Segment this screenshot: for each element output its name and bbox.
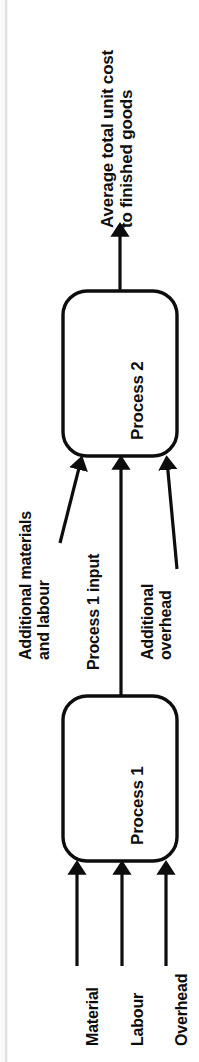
additional-overhead-label: Additional overhead (139, 584, 175, 660)
additional-overhead-line2: overhead (157, 584, 175, 660)
process-2-box[interactable] (63, 291, 177, 456)
additional-materials-and-labour-label: Additional materials and labour (17, 511, 53, 660)
process-1-label: Process 1 (128, 766, 148, 845)
additional-materials-and-labour-line1: Additional materials (17, 511, 35, 660)
labour-label: Labour (129, 993, 147, 1046)
additional-overhead-line1: Additional (139, 584, 157, 660)
process-1-box[interactable] (63, 696, 177, 861)
process-1-input-label: Process 1 input (85, 554, 103, 670)
process-2-label: Process 2 (128, 361, 148, 440)
output-label-line1: Average total unit cost (98, 50, 117, 228)
process-1-input-line1: Process 1 input (85, 554, 103, 670)
material-label: Material (84, 987, 102, 1046)
additional-overhead-arrow (168, 466, 178, 569)
diagram-canvas: Average total unit cost to finished good… (0, 0, 199, 1062)
additional-materials-and-labour-arrow (60, 466, 80, 543)
overhead-label: Overhead (173, 974, 191, 1046)
output-label-line2: to finished goods (117, 50, 136, 228)
output-label: Average total unit cost to finished good… (98, 50, 136, 228)
additional-materials-and-labour-line2: and labour (35, 511, 53, 660)
